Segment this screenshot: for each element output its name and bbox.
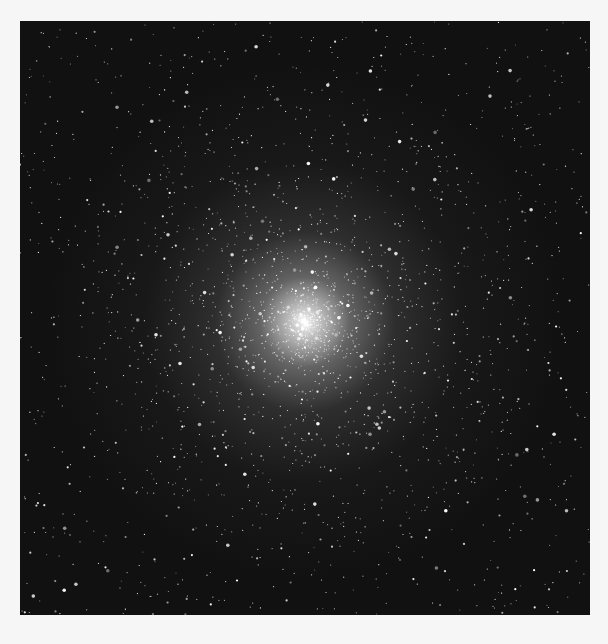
star-field: [20, 21, 590, 615]
star-cluster-image: [20, 21, 590, 615]
